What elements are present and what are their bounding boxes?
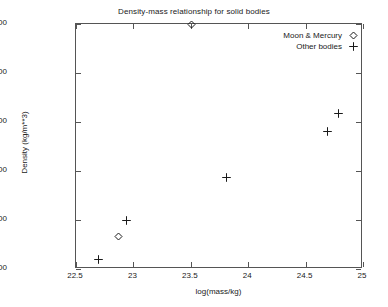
y-axis-tick — [76, 269, 81, 270]
x-axis-tick — [133, 262, 134, 267]
plot-area — [75, 23, 362, 268]
scatter-plot-figure: Density-mass relationship for solid bodi… — [0, 0, 388, 307]
x-axis-tick-label: 24.5 — [297, 272, 313, 280]
x-axis-tick — [306, 24, 307, 29]
data-point — [222, 173, 231, 182]
y-axis-tick — [76, 171, 81, 172]
y-axis-tick-label: 3500 — [0, 215, 7, 223]
legend-item: Moon & Mercury — [283, 30, 358, 41]
x-axis-tick — [76, 262, 77, 267]
y-axis-tick — [76, 122, 81, 123]
data-point — [334, 109, 343, 118]
y-axis-tick-label: 4000 — [0, 166, 7, 174]
y-axis-tick — [356, 122, 361, 123]
x-axis-tick — [133, 24, 134, 29]
x-axis-tick — [191, 262, 192, 267]
x-axis-tick — [248, 262, 249, 267]
y-axis-tick-label: 4500 — [0, 117, 7, 125]
chart-legend: Moon & MercuryOther bodies — [283, 30, 358, 52]
legend-label: Moon & Mercury — [283, 31, 342, 40]
x-axis-tick — [363, 262, 364, 267]
data-point — [323, 127, 332, 136]
y-axis-tick-label: 5000 — [0, 68, 7, 76]
x-axis-tick-label: 25 — [358, 272, 367, 280]
data-point — [122, 216, 131, 225]
y-axis-tick — [76, 220, 81, 221]
chart-title: Density-mass relationship for solid bodi… — [0, 7, 388, 16]
legend-label: Other bodies — [296, 42, 342, 51]
x-axis-tick — [76, 24, 77, 29]
x-axis-tick — [248, 24, 249, 29]
y-axis-tick — [356, 269, 361, 270]
y-axis-tick — [356, 24, 361, 25]
y-axis-tick-label: 5500 — [0, 19, 7, 27]
data-point — [114, 232, 123, 241]
legend-marker-icon — [349, 42, 358, 51]
legend-item: Other bodies — [283, 41, 358, 52]
y-axis-tick-label: 3000 — [0, 264, 7, 272]
data-point — [187, 20, 196, 29]
y-axis-tick — [356, 220, 361, 221]
y-axis-tick — [356, 73, 361, 74]
x-axis-tick — [306, 262, 307, 267]
data-point — [94, 255, 103, 264]
y-axis-tick — [76, 73, 81, 74]
legend-marker-icon — [349, 31, 358, 40]
y-axis-title: Density (kg/m**3) — [20, 78, 29, 208]
x-axis-tick-label: 23.5 — [182, 272, 198, 280]
y-axis-tick — [356, 171, 361, 172]
x-axis-tick-label: 22.5 — [67, 272, 83, 280]
x-axis-tick — [363, 24, 364, 29]
x-axis-title: log(mass/kg) — [75, 287, 362, 296]
x-axis-tick-label: 24 — [243, 272, 252, 280]
x-axis-tick-label: 23 — [128, 272, 137, 280]
